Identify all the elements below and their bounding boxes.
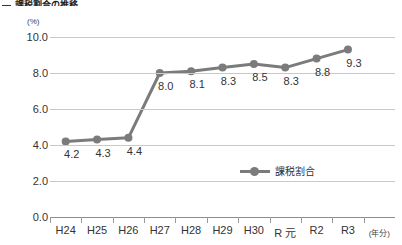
data-point-marker — [281, 64, 289, 72]
x-axis-line — [50, 217, 395, 218]
data-point-marker — [313, 55, 321, 63]
x-axis-tick — [364, 217, 365, 223]
y-axis-tick-label: 6.0 — [16, 103, 48, 115]
x-axis-tick-label: H26 — [118, 224, 138, 236]
data-point-label: 8.0 — [158, 80, 173, 92]
data-point-label: 4.3 — [95, 147, 110, 159]
x-axis-tick — [81, 217, 82, 223]
plot-area: H24H25H26H27H28H29H30R 元R2R3(年分)4.24.34.… — [50, 8, 395, 245]
x-axis-tick — [50, 217, 51, 223]
data-point-label: 4.4 — [127, 145, 142, 157]
x-axis-tick-label: R 元 — [274, 224, 296, 240]
data-point-marker — [344, 46, 352, 54]
title-bullet-icon — [2, 5, 11, 6]
y-axis-tick-label: 2.0 — [16, 175, 48, 187]
data-point-marker — [250, 60, 258, 68]
x-axis-tick — [301, 217, 302, 223]
x-axis-tick — [332, 217, 333, 223]
x-axis-tick-label: H24 — [56, 224, 76, 236]
x-axis-tick — [270, 217, 271, 223]
x-axis-tick — [113, 217, 114, 223]
x-axis-tick — [175, 217, 176, 223]
x-axis-tick-label: H30 — [244, 224, 264, 236]
page-title: 課税割合の推移 — [0, 0, 402, 6]
x-axis-tick — [144, 217, 145, 223]
y-axis-labels: 0.02.04.06.08.010.0 — [0, 8, 48, 245]
gridline — [50, 37, 395, 38]
data-point-label: 8.5 — [252, 71, 267, 83]
data-point-marker — [219, 64, 227, 72]
series-line-courses — [50, 8, 395, 245]
x-axis-tick-label: R2 — [310, 224, 324, 236]
legend-marker-icon — [240, 166, 270, 176]
x-axis-tick-label: H29 — [212, 224, 232, 236]
data-point-label: 8.8 — [315, 66, 330, 78]
x-axis-tick-label: H28 — [181, 224, 201, 236]
data-point-label: 9.3 — [346, 57, 361, 69]
x-axis-unit-label: (年分) — [369, 227, 390, 238]
y-axis-tick-label: 10.0 — [16, 31, 48, 43]
data-point-label: 8.3 — [284, 75, 299, 87]
data-point-marker — [187, 67, 195, 75]
gridline — [50, 109, 395, 110]
x-axis-tick-label: H25 — [87, 224, 107, 236]
page-title-text: 課税割合の推移 — [15, 0, 78, 6]
y-axis-tick-label: 8.0 — [16, 67, 48, 79]
x-axis-tick — [207, 217, 208, 223]
x-axis-tick — [238, 217, 239, 223]
series-line — [66, 50, 348, 142]
line-chart: (%) 0.02.04.06.08.010.0 H24H25H26H27H28H… — [0, 8, 402, 245]
y-axis-tick-label: 0.0 — [16, 211, 48, 223]
data-point-label: 8.1 — [189, 78, 204, 90]
gridline — [50, 181, 395, 182]
x-axis-tick-label: H27 — [150, 224, 170, 236]
data-point-label: 4.2 — [64, 148, 79, 160]
chart-legend: 課税割合 — [240, 163, 315, 178]
data-point-label: 8.3 — [221, 75, 236, 87]
y-axis-tick-label: 4.0 — [16, 139, 48, 151]
data-point-marker — [93, 136, 101, 144]
x-axis-tick-label: R3 — [341, 224, 355, 236]
legend-label: 課税割合 — [275, 163, 315, 178]
data-point-marker — [124, 134, 132, 142]
